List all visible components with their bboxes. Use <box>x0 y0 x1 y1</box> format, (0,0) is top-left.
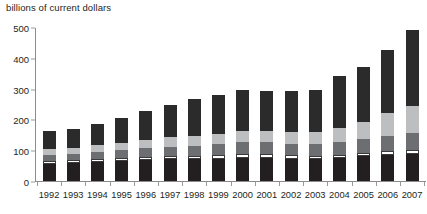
x-axis-tick-mark <box>85 182 86 186</box>
x-axis-tick-mark <box>424 182 425 186</box>
bar-segment-segment-4 <box>381 113 394 136</box>
bar-segment-segment-1 <box>164 159 177 181</box>
bar-segment-segment-5 <box>285 91 298 132</box>
y-axis-tick-label: 500 <box>0 23 29 34</box>
bar-segment-segment-1 <box>357 156 370 181</box>
bar-segment-segment-1 <box>381 155 394 181</box>
bar-segment-segment-5 <box>260 91 273 131</box>
bar-segment-segment-4 <box>260 131 273 143</box>
x-axis-label-1999: 1999 <box>208 190 229 200</box>
bar-1995 <box>115 118 128 181</box>
x-axis-label-1992: 1992 <box>39 190 60 200</box>
bar-segment-segment-3 <box>260 142 273 154</box>
bar-segment-segment-5 <box>164 105 177 137</box>
bar-segment-segment-3 <box>236 142 249 154</box>
bar-segment-segment-1 <box>188 159 201 181</box>
stacked-bar-chart: billions of current dollars 010020030040… <box>0 0 427 214</box>
bar-segment-segment-5 <box>212 95 225 134</box>
bar-segment-segment-1 <box>260 158 273 181</box>
bar-segment-segment-1 <box>91 162 104 181</box>
bar-segment-segment-1 <box>406 154 419 181</box>
bar-1993 <box>67 129 80 181</box>
bar-segment-segment-1 <box>43 164 56 181</box>
bar-1998 <box>188 99 201 181</box>
bar-segment-segment-4 <box>188 136 201 146</box>
bar-segment-segment-4 <box>212 134 225 144</box>
x-axis-label-2006: 2006 <box>377 190 398 200</box>
bar-segment-segment-5 <box>236 90 249 131</box>
x-axis-label-1994: 1994 <box>87 190 108 200</box>
bar-segment-segment-3 <box>285 144 298 155</box>
bar-segment-segment-3 <box>164 147 177 157</box>
bar-segment-segment-5 <box>91 124 104 146</box>
bar-segment-segment-3 <box>139 148 152 157</box>
x-axis-label-2002: 2002 <box>281 190 302 200</box>
x-axis-tick-mark <box>61 182 62 186</box>
bar-1992 <box>43 131 56 181</box>
bar-2005 <box>357 67 370 181</box>
x-axis-tick-mark <box>37 182 38 186</box>
x-axis-label-2001: 2001 <box>256 190 277 200</box>
bar-segment-segment-1 <box>212 159 225 181</box>
x-axis-label-2004: 2004 <box>329 190 350 200</box>
bar-segment-segment-3 <box>115 150 128 158</box>
bar-2003 <box>309 90 322 181</box>
x-axis-tick-mark <box>400 182 401 186</box>
bar-segment-segment-5 <box>357 67 370 122</box>
bar-1997 <box>164 105 177 181</box>
x-axis-tick-mark <box>231 182 232 186</box>
bar-segment-segment-5 <box>406 30 419 106</box>
bar-segment-segment-1 <box>285 159 298 181</box>
x-axis-tick-mark <box>110 182 111 186</box>
y-axis-tick-label: 200 <box>0 115 29 126</box>
bar-2002 <box>285 91 298 181</box>
x-axis-label-2003: 2003 <box>305 190 326 200</box>
x-axis-label-1995: 1995 <box>111 190 132 200</box>
x-axis-label-2007: 2007 <box>402 190 423 200</box>
bar-segment-segment-4 <box>139 140 152 148</box>
bar-2007 <box>406 30 419 181</box>
bar-segment-segment-3 <box>333 142 346 155</box>
bar-segment-segment-3 <box>381 136 394 151</box>
x-axis-label-2005: 2005 <box>353 190 374 200</box>
chart-axis-title: billions of current dollars <box>6 2 111 13</box>
bar-segment-segment-5 <box>139 111 152 140</box>
x-axis-label-1996: 1996 <box>135 190 156 200</box>
bar-segment-segment-5 <box>333 76 346 127</box>
x-axis-tick-mark <box>206 182 207 186</box>
x-axis-tick-mark <box>158 182 159 186</box>
x-axis-tick-mark <box>352 182 353 186</box>
bar-segment-segment-3 <box>357 139 370 153</box>
bar-2006 <box>381 50 394 181</box>
bar-1994 <box>91 124 104 181</box>
bar-segment-segment-5 <box>381 50 394 113</box>
x-axis-label-1997: 1997 <box>160 190 181 200</box>
bar-segment-segment-5 <box>188 99 201 136</box>
bar-segment-segment-4 <box>406 106 419 133</box>
bar-2000 <box>236 90 249 181</box>
x-axis-tick-mark <box>279 182 280 186</box>
x-axis-tick-mark <box>303 182 304 186</box>
bar-segment-segment-5 <box>43 131 56 149</box>
x-axis-label-1993: 1993 <box>63 190 84 200</box>
bar-segment-segment-3 <box>91 152 104 159</box>
bar-group <box>35 28 423 182</box>
y-axis-tick-label: 400 <box>0 53 29 64</box>
bar-segment-segment-1 <box>67 163 80 181</box>
bar-2004 <box>333 76 346 181</box>
bar-segment-segment-1 <box>309 159 322 181</box>
bar-segment-segment-5 <box>115 118 128 143</box>
bar-segment-segment-1 <box>139 160 152 181</box>
bar-1996 <box>139 111 152 181</box>
bar-segment-segment-3 <box>406 133 419 150</box>
x-axis-tick-mark <box>255 182 256 186</box>
bar-segment-segment-4 <box>285 132 298 144</box>
x-axis-tick-mark <box>134 182 135 186</box>
bar-segment-segment-1 <box>115 161 128 181</box>
plot-area: 0100200300400500 <box>35 28 423 182</box>
x-axis-label-group: 1992199319941995199619971998199920002001… <box>35 190 423 208</box>
y-axis-tick-label: 100 <box>0 146 29 157</box>
x-axis-label-2000: 2000 <box>232 190 253 200</box>
bar-segment-segment-5 <box>67 129 80 148</box>
bar-segment-segment-4 <box>164 137 177 146</box>
